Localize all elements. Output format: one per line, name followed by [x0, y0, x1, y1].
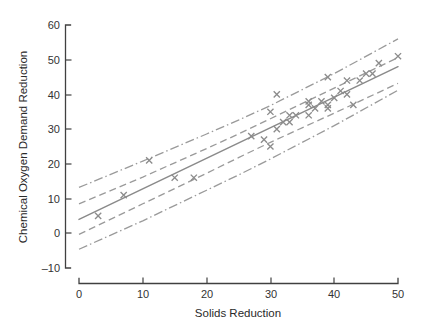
data-point — [267, 109, 273, 115]
x-tick-label-0: 0 — [76, 288, 82, 300]
data-point — [261, 136, 267, 142]
x-axis-title: Solids Reduction — [195, 307, 281, 319]
data-point — [344, 77, 350, 83]
data-point — [369, 71, 375, 77]
data-point — [395, 53, 401, 59]
data-point — [325, 74, 331, 80]
regression-line — [79, 67, 398, 220]
data-point — [267, 143, 273, 149]
y-axis-title: Chemical Oxygen Demand Reduction — [17, 51, 29, 243]
data-point — [376, 60, 382, 66]
x-tick-label-20: 20 — [201, 288, 213, 300]
data-point — [357, 77, 363, 83]
data-point — [325, 105, 331, 111]
confidence-band — [79, 58, 398, 235]
prediction-lower-line — [79, 90, 398, 249]
confidence-upper-line — [79, 58, 398, 204]
data-point — [274, 126, 280, 132]
x-axis-spine — [79, 279, 398, 284]
y-tick-label-40: 40 — [48, 89, 60, 101]
data-point — [286, 119, 292, 125]
y-axis-spine — [66, 25, 71, 268]
figure-container: 60 50 40 30 20 10 0 –10 Chemical Oxygen … — [0, 0, 425, 329]
scatter-plot: 60 50 40 30 20 10 0 –10 Chemical Oxygen … — [0, 0, 425, 329]
y-tick-label-0: 0 — [54, 227, 60, 239]
y-tick-label-50: 50 — [48, 54, 60, 66]
data-point — [286, 112, 292, 118]
y-tick-label-10: 10 — [48, 193, 60, 205]
data-point — [306, 112, 312, 118]
data-point — [95, 213, 101, 219]
x-tick-label-10: 10 — [137, 288, 149, 300]
y-tick-label-30: 30 — [48, 123, 60, 135]
x-tick-label-40: 40 — [328, 288, 340, 300]
prediction-upper-line — [79, 39, 398, 188]
prediction-band — [79, 39, 398, 249]
y-tick-label-60: 60 — [48, 19, 60, 31]
x-tick-label-30: 30 — [265, 288, 277, 300]
data-point — [146, 157, 152, 163]
data-point — [344, 91, 350, 97]
y-tick-label-20: 20 — [48, 158, 60, 170]
y-tick-label-minus-10: –10 — [42, 262, 60, 274]
data-point — [306, 98, 312, 104]
data-point — [337, 88, 343, 94]
data-point — [172, 175, 178, 181]
data-point — [274, 91, 280, 97]
x-tick-label-50: 50 — [392, 288, 404, 300]
x-axis: 0 10 20 30 40 50 Solids Reduction — [76, 278, 404, 320]
y-axis: 60 50 40 30 20 10 0 –10 Chemical Oxygen … — [17, 19, 72, 274]
confidence-lower-line — [79, 83, 398, 234]
